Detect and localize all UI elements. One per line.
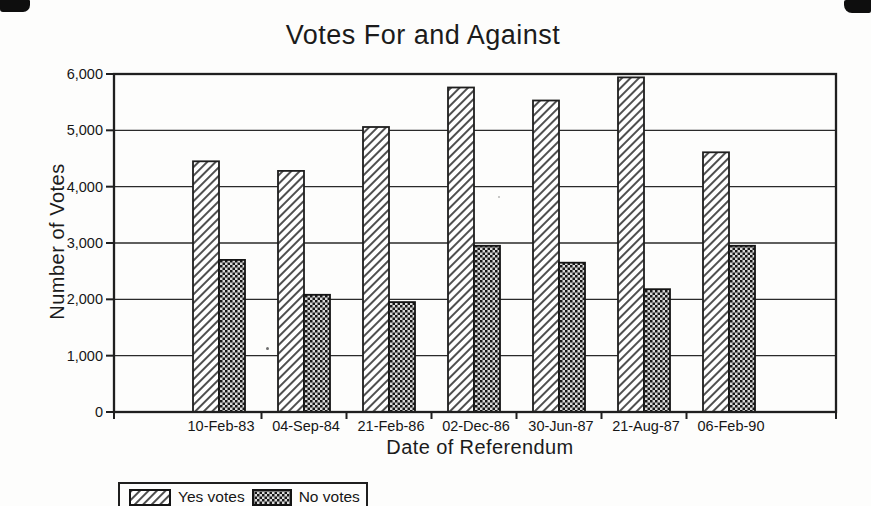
y-tick-label: 2,000 <box>67 291 103 307</box>
bar-yes-votes <box>448 88 474 413</box>
chart-plot-area: 01,0002,0003,0004,0005,0006,00010-Feb-83… <box>0 0 871 506</box>
bar-no-votes <box>304 295 330 412</box>
legend-label-yes-votes: Yes votes <box>178 488 245 506</box>
y-tick-label: 4,000 <box>67 179 103 195</box>
x-axis-title: Date of Referendum <box>0 436 871 459</box>
y-tick-label: 5,000 <box>67 122 103 138</box>
no-votes-swatch-icon <box>252 489 292 506</box>
bar-yes-votes <box>703 152 729 412</box>
yes-votes-swatch-icon <box>129 489 171 506</box>
bar-no-votes <box>729 246 755 412</box>
bar-yes-votes <box>278 171 304 412</box>
y-tick-label: 0 <box>95 404 103 420</box>
y-axis-title: Number of Votes <box>46 82 69 402</box>
bar-yes-votes <box>533 101 559 413</box>
bar-no-votes <box>559 263 585 412</box>
chart-svg: 01,0002,0003,0004,0005,0006,00010-Feb-83… <box>0 0 871 506</box>
y-tick-label: 1,000 <box>67 348 103 364</box>
bar-yes-votes <box>618 77 644 412</box>
bar-no-votes <box>219 260 245 412</box>
x-tick-label: 04-Sep-84 <box>272 418 340 434</box>
x-tick-label: 21-Feb-86 <box>358 418 425 434</box>
legend-label-no-votes: No votes <box>299 488 360 506</box>
bar-no-votes <box>644 289 670 412</box>
legend-box: Yes votes No votes <box>118 482 368 506</box>
bar-yes-votes <box>193 161 219 412</box>
x-tick-label: 10-Feb-83 <box>188 418 255 434</box>
x-tick-label: 02-Dec-86 <box>442 418 510 434</box>
y-tick-label: 3,000 <box>67 235 103 251</box>
x-tick-label: 21-Aug-87 <box>612 418 680 434</box>
x-tick-label: 30-Jun-87 <box>528 418 593 434</box>
x-tick-label: 06-Feb-90 <box>698 418 765 434</box>
bar-no-votes <box>389 302 415 412</box>
y-tick-label: 6,000 <box>67 66 103 82</box>
scanned-chart-page: { "page": { "paper_color": "#fdfdfc", "i… <box>0 0 871 506</box>
bar-yes-votes <box>363 127 389 412</box>
bar-no-votes <box>474 246 500 412</box>
